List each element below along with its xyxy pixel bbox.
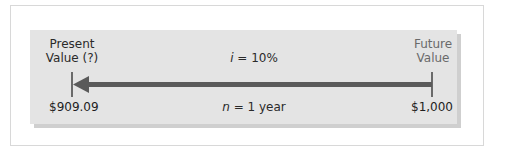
- present-value-label: Present Value (?): [36, 37, 108, 65]
- period-value: = 1 year: [230, 100, 286, 114]
- present-label-line2: Value (?): [36, 51, 108, 65]
- period-label: n = 1 year: [222, 100, 286, 114]
- future-label-line2: Value: [398, 51, 468, 65]
- arrowhead-left-icon: [73, 76, 89, 93]
- timeline-arrow: [0, 0, 508, 156]
- future-label-line1: Future: [398, 37, 468, 51]
- future-value-amount: $1,000: [411, 100, 453, 114]
- arrow-shaft: [84, 82, 432, 87]
- present-label-line1: Present: [36, 37, 108, 51]
- rate-value: = 10%: [233, 51, 277, 65]
- present-value-amount: $909.09: [49, 100, 99, 114]
- future-value-label: Future Value: [398, 37, 468, 65]
- interest-rate-label: i = 10%: [230, 51, 278, 65]
- period-variable: n: [222, 100, 230, 114]
